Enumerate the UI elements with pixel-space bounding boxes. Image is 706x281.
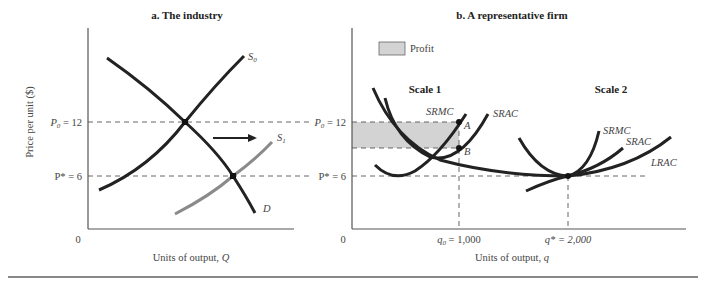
supply-curve-s0 (99, 56, 244, 190)
origin-label: 0 (75, 234, 80, 245)
point-b (456, 145, 462, 151)
x-axis-label: Units of output, Q (153, 252, 230, 263)
equilibrium-point-initial (182, 119, 188, 125)
srmc-scale2-label: SRMC (603, 125, 631, 136)
srac-scale1-label: SRAC (493, 108, 519, 119)
point-b-label: B (464, 146, 471, 157)
firm-title: b. A representative firm (456, 9, 567, 21)
q0-tick-label: q0 = 1,000 (437, 234, 481, 247)
s0-label: S0 (248, 51, 257, 64)
p0-tick-label: P0 = 12 (313, 117, 346, 130)
srac-scale2-label: SRAC (626, 136, 652, 147)
profit-legend-label: Profit (410, 43, 434, 54)
y-axis-label: Price per unit ($) (24, 86, 36, 158)
pstar-tick-label: P* = 6 (54, 171, 82, 182)
equilibrium-point-new (230, 173, 236, 179)
supply-curve-s1 (175, 142, 272, 214)
origin-label: 0 (340, 234, 345, 245)
s1-label: S1 (277, 132, 286, 145)
point-a (456, 119, 462, 125)
point-a-label: A (463, 120, 471, 131)
bottom-divider (8, 276, 698, 278)
p0-tick-label: P0 = 12 (49, 117, 82, 130)
scale-1-label: Scale 1 (409, 83, 442, 95)
firm-panel: b. A representative firm Profit P0 = 12 … (313, 9, 686, 263)
demand-curve (107, 58, 255, 213)
x-axis-label: Units of output, q (475, 252, 549, 263)
chart-canvas: a. The industry Price per unit ($) P0 = … (0, 0, 706, 281)
d-label: D (262, 203, 271, 214)
profit-legend-swatch (379, 42, 405, 55)
pstar-tick-label: P* = 6 (318, 171, 346, 182)
industry-panel: a. The industry Price per unit ($) P0 = … (24, 9, 310, 263)
long-run-equilibrium-point (565, 173, 571, 179)
scale-2-label: Scale 2 (595, 83, 628, 95)
srmc-scale1-label: SRMC (426, 106, 454, 117)
lrac-label: LRAC (650, 157, 678, 168)
qstar-tick-label: q* = 2,000 (545, 234, 592, 245)
industry-title: a. The industry (151, 9, 223, 21)
shift-arrow-head-icon (248, 134, 257, 142)
